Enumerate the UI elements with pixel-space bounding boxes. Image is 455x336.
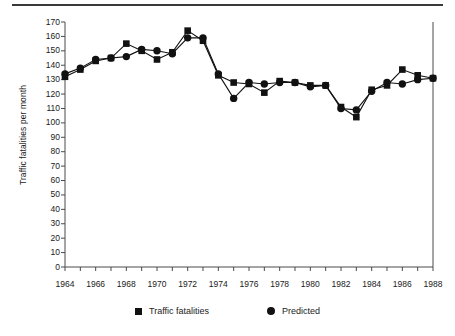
- data-point-circle: [169, 50, 176, 57]
- figure-page: Traffic fatalities per month 01020304050…: [0, 0, 455, 336]
- circle-marker-icon: [267, 307, 275, 315]
- data-point-circle: [399, 80, 406, 87]
- data-point-circle: [261, 80, 268, 87]
- data-point-square: [353, 114, 360, 121]
- legend-label: Traffic fatalities: [149, 306, 209, 316]
- data-point-circle: [61, 70, 68, 77]
- data-point-circle: [429, 75, 436, 82]
- legend-item-predicted: Predicted: [267, 306, 320, 316]
- data-point-circle: [276, 79, 283, 86]
- data-point-circle: [138, 46, 145, 53]
- square-marker-icon: [135, 308, 142, 315]
- x-tick-label: 1988: [413, 279, 453, 289]
- data-point-circle: [245, 79, 252, 86]
- chart-figure: Traffic fatalities per month 01020304050…: [0, 0, 455, 336]
- data-point-circle: [215, 70, 222, 77]
- data-point-circle: [383, 79, 390, 86]
- data-point-circle: [291, 79, 298, 86]
- data-point-circle: [307, 83, 314, 90]
- data-point-square: [123, 40, 130, 47]
- data-point-circle: [353, 106, 360, 113]
- data-point-circle: [92, 56, 99, 63]
- data-point-square: [399, 66, 406, 73]
- data-point-circle: [107, 54, 114, 61]
- data-point-circle: [337, 105, 344, 112]
- data-point-circle: [322, 82, 329, 89]
- chart-legend: Traffic fatalities Predicted: [0, 306, 455, 316]
- data-point-circle: [368, 87, 375, 94]
- data-point-circle: [77, 64, 84, 71]
- data-point-circle: [123, 53, 130, 60]
- data-point-circle: [230, 95, 237, 102]
- legend-item-traffic-fatalities: Traffic fatalities: [135, 306, 209, 316]
- data-point-square: [184, 27, 191, 34]
- data-point-circle: [184, 34, 191, 41]
- data-point-circle: [414, 76, 421, 83]
- data-point-circle: [199, 34, 206, 41]
- data-point-square: [261, 89, 268, 96]
- legend-label: Predicted: [282, 306, 320, 316]
- data-point-square: [154, 56, 161, 63]
- data-point-circle: [153, 47, 160, 54]
- data-point-square: [230, 79, 237, 86]
